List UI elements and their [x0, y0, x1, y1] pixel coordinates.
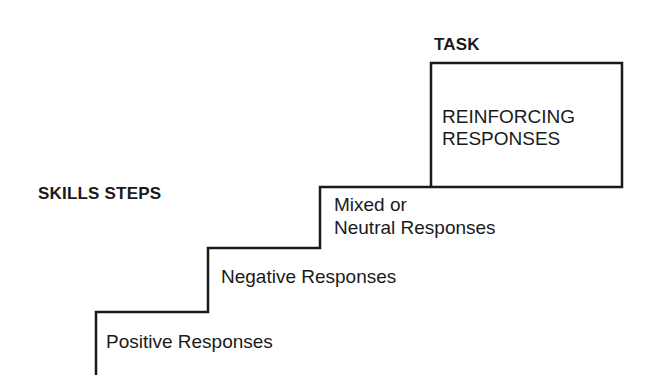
staircase-diagram: TASK SKILLS STEPS REINFORCING RESPONSES …: [0, 0, 658, 390]
step-1-label: Positive Responses: [106, 330, 273, 354]
step-3-label-line1: Mixed or: [334, 193, 407, 217]
step-2-label: Negative Responses: [221, 265, 396, 289]
step-3-label-line2: Neutral Responses: [334, 216, 496, 240]
skills-steps-heading: SKILLS STEPS: [38, 184, 161, 204]
task-box-label-line1: REINFORCING: [442, 106, 575, 128]
task-heading: TASK: [434, 35, 480, 55]
task-box-label-line2: RESPONSES: [442, 128, 560, 150]
